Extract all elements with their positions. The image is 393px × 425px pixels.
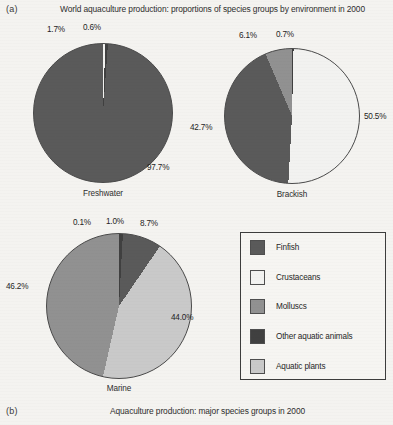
legend: Finfish Crustaceans Molluscs Other aquat… [240,232,386,380]
pct-marine-other: 1.0% [106,217,124,226]
legend-label-aquatic-plants: Aquatic plants [276,362,325,371]
legend-swatch-crustaceans [250,270,265,285]
figure-page: (a) World aquaculture production: propor… [0,0,393,425]
legend-label-crustaceans: Crustaceans [276,273,320,282]
pie-marine-title: Marine [46,384,192,393]
pct-freshwater-crustaceans: 1.7% [47,25,65,34]
panel-label-b: (b) [6,406,18,416]
legend-label-finfish: Finfish [276,243,299,252]
pct-freshwater-finfish: 97.7% [147,163,169,172]
pct-brackish-molluscs: 6.1% [239,31,257,40]
legend-swatch-aquatic-plants [250,359,265,374]
figure-caption: Aquaculture production: major species gr… [110,406,393,416]
pct-brackish-other: 0.7% [276,30,294,39]
legend-swatch-other-aquatic-animals [250,329,265,344]
pie-brackish-graphic [224,48,360,184]
legend-label-molluscs: Molluscs [276,302,307,311]
legend-swatch-finfish [250,240,265,255]
pct-brackish-crustaceans: 50.5% [364,112,386,121]
legend-swatch-molluscs [250,299,265,314]
pct-marine-crustaceans: 0.1% [73,218,91,227]
pie-chart-freshwater: Freshwater [33,43,173,203]
pie-freshwater-graphic [33,43,173,183]
legend-label-other-aquatic-animals: Other aquatic animals [276,332,353,341]
pct-brackish-finfish: 42.7% [190,123,212,132]
figure-title: World aquaculture production: proportion… [60,4,390,14]
pct-marine-finfish: 8.7% [140,219,158,228]
legend-item-aquatic-plants: Aquatic plants [241,351,385,381]
pie-brackish-title: Brackish [224,190,360,199]
pct-marine-molluscs: 46.2% [6,282,28,291]
pie-freshwater-title: Freshwater [33,189,173,198]
legend-item-finfish: Finfish [241,233,385,263]
pct-freshwater-other: 0.6% [83,23,101,32]
pie-chart-brackish: Brackish [224,48,360,204]
pct-marine-aquatic-plants: 44.0% [171,313,193,322]
legend-item-crustaceans: Crustaceans [241,263,385,293]
legend-item-other-aquatic-animals: Other aquatic animals [241,322,385,352]
panel-label-a: (a) [6,4,18,14]
pie-marine-graphic [46,233,192,379]
legend-item-molluscs: Molluscs [241,292,385,322]
